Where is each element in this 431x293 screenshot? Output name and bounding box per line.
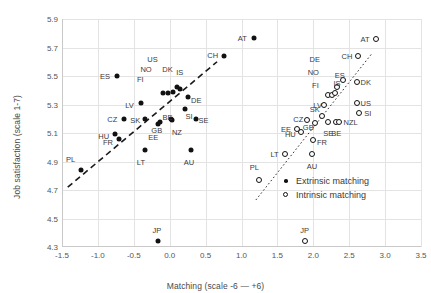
point-label: JP [152,225,161,234]
data-point[interactable] [157,119,162,124]
y-axis-title: Job satisfaction (scale 1-7) [12,67,22,227]
data-point[interactable] [113,132,118,137]
data-point[interactable] [251,35,256,40]
y-tick-label: 4.5 [40,214,58,223]
y-tick-label: 5.5 [40,72,58,81]
point-label: CZ [293,114,303,123]
x-tick-label: 0.0 [164,251,175,260]
x-tick-label: 2.0 [308,251,319,260]
data-point[interactable] [188,148,193,153]
data-point[interactable] [171,89,176,94]
y-tick-label: 5.1 [40,129,58,138]
point-label: FR [317,137,327,146]
point-label: BE [163,113,173,122]
point-label: CH [342,52,353,61]
data-point[interactable] [177,86,182,91]
data-point[interactable] [356,110,362,116]
point-label: NO [140,64,151,73]
data-point[interactable] [138,101,143,106]
x-tick-label: 2.5 [344,251,355,260]
point-label: AT [238,33,247,42]
data-point[interactable] [319,113,325,119]
data-point[interactable] [114,74,119,79]
point-label: ES [100,72,110,81]
legend-label: Intrinsic matching [296,190,366,200]
point-label: GB [303,123,314,132]
y-tick-label: 5.9 [40,15,58,24]
gridline-vertical [421,19,422,247]
data-point[interactable] [325,119,331,125]
data-point[interactable] [142,148,147,153]
data-point[interactable] [332,90,338,96]
x-tick-label: -1.5 [55,251,69,260]
data-point[interactable] [321,102,327,108]
point-label: PL [66,154,75,163]
point-label: EE [281,124,291,133]
plot-area: PLLTAUJPFRHUCZSKLVESEEGBNZBEFINOUSDKISSI… [62,19,421,247]
point-label: BE [331,129,341,138]
data-point[interactable] [156,239,161,244]
y-tick-label: 5.3 [40,100,58,109]
point-label: US [360,99,370,108]
data-point[interactable] [336,119,342,125]
x-tick-label: 0.5 [200,251,211,260]
point-label: NZL [344,117,358,126]
y-tick-label: 4.7 [40,186,58,195]
point-label: DK [162,64,172,73]
y-tick-label: 5.7 [40,43,58,52]
data-point[interactable] [193,116,198,121]
x-tick-label: 3.0 [380,251,391,260]
point-label: DE [191,96,201,105]
point-label: ES [335,70,345,79]
data-point[interactable] [165,91,170,96]
point-label: SI [364,109,371,118]
scatter-chart: Job satisfaction (scale 1-7) Matching (s… [0,0,431,293]
point-label: IS [333,79,340,88]
point-label: FI [312,80,319,89]
x-tick-label: -1.0 [91,251,105,260]
data-point[interactable] [143,116,148,121]
point-label: SE [198,116,208,125]
data-point[interactable] [354,100,360,106]
data-point[interactable] [78,168,83,173]
data-point[interactable] [302,238,308,244]
point-label: IS [176,67,183,76]
point-label: SK [130,116,140,125]
data-point[interactable] [222,54,227,59]
hollow-circle-icon [281,192,291,197]
point-label: PL [250,163,259,172]
point-label: NZ [172,127,182,136]
point-label: LT [137,157,145,166]
y-tick-label: 4.9 [40,157,58,166]
point-label: AU [184,157,194,166]
x-tick-label: -0.5 [127,251,141,260]
point-label: DK [360,77,370,86]
point-label: US [147,54,157,63]
data-point[interactable] [117,136,122,141]
legend-item[interactable]: Extrinsic matching [281,176,369,186]
point-label: AT [360,34,369,43]
point-label: CH [207,50,218,59]
data-point[interactable] [122,116,127,121]
point-label: SI [186,111,193,120]
x-tick-label: 3.5 [415,251,426,260]
data-point[interactable] [355,53,361,59]
x-tick-label: 1.0 [236,251,247,260]
point-label: CZ [107,114,117,123]
point-label: NO [308,67,319,76]
data-point[interactable] [373,36,379,42]
legend-item[interactable]: Intrinsic matching [281,190,369,200]
filled-circle-icon [281,179,291,183]
data-point[interactable] [309,151,315,157]
data-point[interactable] [310,137,316,143]
point-label: LV [313,100,322,109]
point-label: AU [307,161,317,170]
y-tick-label: 4.3 [40,243,58,252]
data-point[interactable] [282,151,288,157]
point-label: JP [300,225,309,234]
data-point[interactable] [354,79,360,85]
point-label: FI [137,74,144,83]
legend-label: Extrinsic matching [296,176,369,186]
point-label: GB [151,126,162,135]
data-point[interactable] [256,177,262,183]
